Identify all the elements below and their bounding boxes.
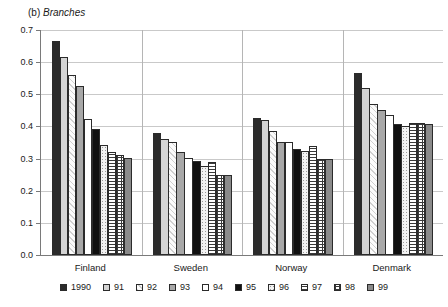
- y-tick-label: 0.4: [3, 122, 33, 131]
- legend-item-99[interactable]: 99: [367, 283, 388, 292]
- category-label-denmark: Denmark: [342, 263, 443, 273]
- bar-denmark-99: [425, 124, 433, 255]
- legend-label-96: 96: [279, 283, 289, 292]
- figure: (b) Branches 0.00.10.20.30.40.50.60.7 Fi…: [0, 0, 448, 307]
- legend-swatch-91: [103, 284, 110, 291]
- legend-item-93[interactable]: 93: [169, 283, 190, 292]
- chart-title-prefix: (b): [28, 7, 43, 18]
- legend-label-95: 95: [246, 283, 256, 292]
- legend-label-97: 97: [312, 283, 322, 292]
- legend-item-97[interactable]: 97: [301, 283, 322, 292]
- bar-sweden-99: [224, 175, 232, 255]
- y-tick-label: 0.7: [3, 26, 33, 35]
- bar-group-sweden: [142, 30, 243, 255]
- legend-label-99: 99: [378, 283, 388, 292]
- legend-label-94: 94: [213, 283, 223, 292]
- legend-swatch-98: [334, 284, 341, 291]
- category-label-sweden: Sweden: [141, 263, 242, 273]
- legend-item-96[interactable]: 96: [268, 283, 289, 292]
- legend-swatch-99: [367, 284, 374, 291]
- bar-finland-99: [124, 158, 132, 255]
- legend-swatch-96: [268, 284, 275, 291]
- legend-swatch-92: [136, 284, 143, 291]
- chart-title-italic: Branches: [43, 7, 85, 18]
- y-tick-label: 0.6: [3, 58, 33, 67]
- legend-item-91[interactable]: 91: [103, 283, 124, 292]
- legend-label-1990: 1990: [71, 283, 91, 292]
- legend-item-92[interactable]: 92: [136, 283, 157, 292]
- legend-label-93: 93: [180, 283, 190, 292]
- plot-area: 0.00.10.20.30.40.50.60.7: [40, 30, 443, 256]
- bar-group-norway: [242, 30, 343, 255]
- legend-swatch-1990: [60, 284, 67, 291]
- legend-item-95[interactable]: 95: [235, 283, 256, 292]
- legend: 1990919293949596979899: [0, 283, 448, 292]
- y-tick-label: 0.1: [3, 218, 33, 227]
- category-label-norway: Norway: [241, 263, 342, 273]
- legend-item-98[interactable]: 98: [334, 283, 355, 292]
- y-tick-label: 0.5: [3, 90, 33, 99]
- bar-norway-99: [325, 159, 333, 255]
- chart-title: (b) Branches: [28, 7, 85, 18]
- legend-item-94[interactable]: 94: [202, 283, 223, 292]
- legend-swatch-97: [301, 284, 308, 291]
- legend-swatch-95: [235, 284, 242, 291]
- legend-item-1990[interactable]: 1990: [60, 283, 91, 292]
- y-tick-label: 0.0: [3, 251, 33, 260]
- bar-group-denmark: [343, 30, 444, 255]
- y-tick: [36, 255, 41, 256]
- category-label-finland: Finland: [40, 263, 141, 273]
- y-tick-label: 0.2: [3, 186, 33, 195]
- legend-label-92: 92: [147, 283, 157, 292]
- y-tick-label: 0.3: [3, 154, 33, 163]
- bar-group-finland: [41, 30, 142, 255]
- legend-swatch-94: [202, 284, 209, 291]
- legend-swatch-93: [169, 284, 176, 291]
- legend-label-98: 98: [345, 283, 355, 292]
- legend-label-91: 91: [114, 283, 124, 292]
